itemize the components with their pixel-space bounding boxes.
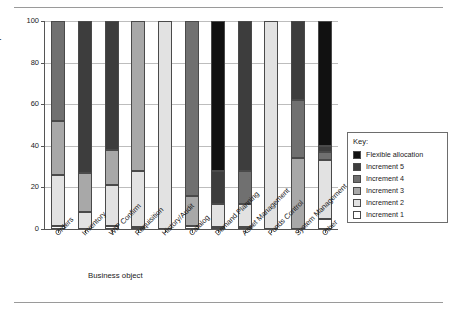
legend-label: Increment 1 [366, 210, 404, 219]
bar-stack [185, 21, 199, 229]
bar-segment [318, 152, 332, 160]
legend-swatch-icon [353, 163, 361, 171]
bar-stack [131, 21, 145, 229]
bar-segment [51, 121, 65, 175]
bar-segment [105, 21, 119, 150]
legend-entries: Flexible allocationIncrement 5Increment … [353, 149, 447, 221]
plot-area: 020406080100 [44, 21, 338, 230]
legend-entry: Increment 5 [353, 161, 447, 173]
bar-segment [131, 171, 145, 227]
bar-stack [211, 21, 225, 229]
figure-bottom-rule [14, 302, 443, 303]
y-tick-label: 40 [13, 141, 39, 150]
bar-segment [51, 21, 65, 121]
bar-segment [51, 175, 65, 226]
bar-segment [211, 21, 225, 171]
bar-stack [51, 21, 65, 229]
legend-entry: Increment 4 [353, 173, 447, 185]
x-axis-category-labels: OrdersInventoryWIP ConfirmRequisitionHis… [44, 231, 344, 287]
bar-stack [158, 21, 172, 229]
y-tick-label: 60 [13, 99, 39, 108]
y-tick-label: 20 [13, 182, 39, 191]
legend-label: Increment 5 [366, 162, 404, 171]
legend-swatch-icon [353, 175, 361, 183]
bar-segment [131, 21, 145, 171]
legend-title: Key: [353, 137, 447, 146]
bar-segment [291, 158, 305, 229]
legend-entry: Flexible allocation [353, 149, 447, 161]
legend-label: Increment 3 [366, 186, 404, 195]
bar-segment [291, 21, 305, 100]
bar-segment [78, 21, 92, 173]
legend-label: Flexible allocation [366, 150, 423, 159]
legend-label: Increment 4 [366, 174, 404, 183]
bar-series-group [45, 21, 338, 229]
legend-entry: Increment 2 [353, 197, 447, 209]
legend-entry: Increment 3 [353, 185, 447, 197]
y-tick-mark [41, 229, 45, 230]
bar-segment [318, 146, 332, 152]
bar-segment [211, 171, 225, 204]
bar-stack [105, 21, 119, 229]
bar-stack [78, 21, 92, 229]
legend-swatch-icon [353, 199, 361, 207]
bar-segment [318, 21, 332, 146]
legend: Key: Flexible allocationIncrement 5Incre… [347, 132, 448, 223]
y-tick-label: 0 [13, 224, 39, 233]
bar-segment [78, 173, 92, 213]
bar-segment [158, 21, 172, 229]
figure-top-rule [14, 7, 443, 8]
bar-segment [238, 21, 252, 171]
y-tick-label: 80 [13, 58, 39, 67]
legend-label: Increment 2 [366, 198, 404, 207]
legend-swatch-icon [353, 151, 361, 159]
legend-swatch-icon [353, 187, 361, 195]
figure: 020406080100 Percent complete Business o… [0, 0, 457, 320]
y-axis-title: Percent complete [0, 23, 1, 84]
bar-segment [291, 100, 305, 158]
legend-entry: Increment 1 [353, 209, 447, 221]
legend-swatch-icon [353, 211, 361, 219]
bar-segment [185, 21, 199, 196]
bar-segment [105, 150, 119, 185]
y-tick-label: 100 [13, 16, 39, 25]
